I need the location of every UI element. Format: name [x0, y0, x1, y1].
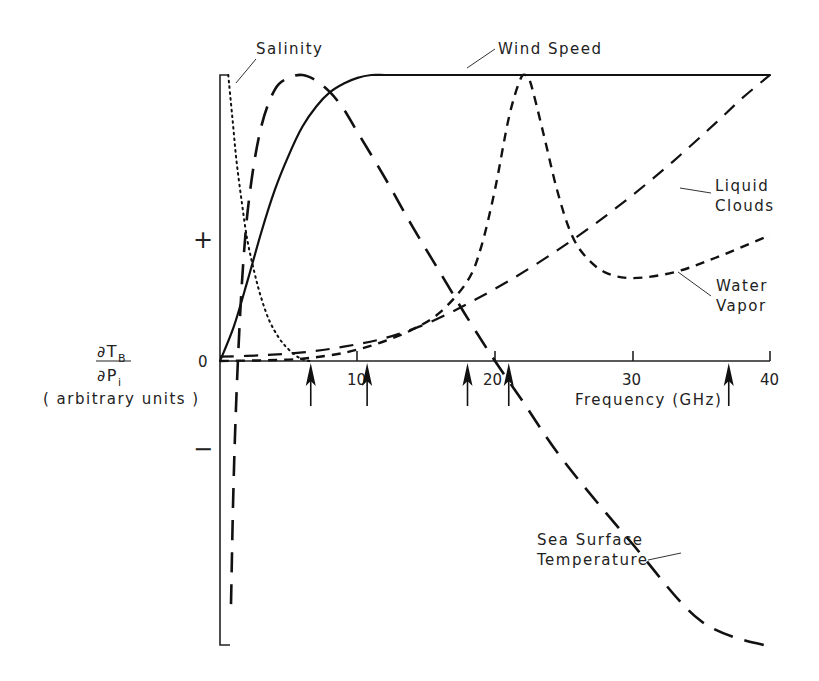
annotation-sst-1: Sea Surface	[537, 531, 643, 549]
annotation-water-vapor-2: Vapor	[716, 297, 767, 315]
y-axis-label: ∂TB ∂Pi ( arbitrary units )	[43, 342, 200, 408]
leader-water-vapor	[678, 272, 711, 296]
series-wind-speed	[220, 75, 770, 361]
annotation-water-vapor-1: Water	[716, 277, 768, 295]
series-water-vapor	[220, 75, 770, 361]
y-tick-label-plus: +	[193, 226, 213, 254]
frequency-marker-arrow	[504, 363, 514, 406]
annotation-sst-2: Temperature	[536, 551, 649, 569]
x-tick-label-20: 20	[483, 371, 502, 389]
x-axis-label: Frequency (GHz)	[575, 391, 722, 409]
annotations: Salinity Wind Speed Liquid Clouds Water …	[236, 40, 775, 569]
annotation-wind-speed: Wind Speed	[498, 40, 603, 58]
y-tick-label-zero: 0	[198, 353, 208, 371]
x-tick-label-30: 30	[622, 371, 641, 389]
frequency-marker-arrow	[362, 363, 372, 406]
series-liquid-clouds	[220, 75, 770, 357]
x-tick-label-40: 40	[760, 371, 779, 389]
annotation-liquid-clouds-1: Liquid	[715, 177, 769, 195]
y-tick-label-minus: −	[193, 435, 213, 463]
y-label-units: ( arbitrary units )	[43, 390, 200, 408]
y-label-denominator: ∂Pi	[97, 366, 122, 389]
leader-wind-speed	[467, 49, 495, 68]
frequency-marker-arrow	[724, 363, 734, 406]
frequency-marker-arrow	[306, 363, 316, 406]
leader-liquid-clouds	[680, 188, 711, 193]
annotation-salinity: Salinity	[256, 40, 323, 58]
frequency-marker-arrow	[463, 363, 473, 406]
series-salinity	[228, 75, 309, 361]
chart: 10 20 30 40 + 0 − ∂TB ∂Pi ( arbitrary un…	[0, 0, 819, 681]
leader-salinity	[236, 59, 256, 83]
x-tick-label-10: 10	[347, 371, 366, 389]
annotation-liquid-clouds-2: Clouds	[715, 197, 775, 215]
leader-sst	[648, 553, 681, 560]
